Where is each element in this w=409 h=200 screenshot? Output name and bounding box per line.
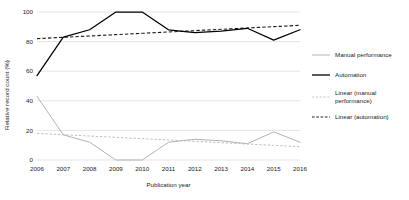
y-tick-label: 0 — [30, 156, 34, 163]
legend-label-linear-manual-performance-line1: Linear (manual — [335, 89, 376, 96]
x-tick-label: 2012 — [188, 165, 202, 172]
legend-label-linear-manual-performance-line2: performance) — [335, 97, 372, 104]
y-tick-label: 80 — [26, 38, 33, 45]
x-tick-label: 2006 — [30, 165, 44, 172]
x-tick-label: 2007 — [56, 165, 70, 172]
legend-label-automation: Automation — [335, 71, 367, 78]
y-tick-label: 100 — [23, 8, 34, 15]
x-tick-label: 2013 — [214, 165, 228, 172]
legend-label-linear-automation: Linear (automation) — [335, 113, 389, 120]
x-axis-title: Publication year — [146, 181, 190, 188]
x-tick-label: 2009 — [109, 165, 123, 172]
x-tick-label: 2014 — [241, 165, 255, 172]
y-axis-title: Relative record count (%) — [3, 60, 10, 130]
x-tick-label: 2016 — [293, 165, 307, 172]
x-tick-label: 2010 — [135, 165, 149, 172]
legend-label-manual-performance: Manual performance — [335, 51, 392, 58]
x-tick-label: 2015 — [267, 165, 281, 172]
x-tick-label: 2008 — [83, 165, 97, 172]
y-tick-label: 60 — [26, 67, 33, 74]
y-tick-label: 40 — [26, 97, 33, 104]
y-tick-label: 20 — [26, 127, 33, 134]
line-chart: 100 80 60 40 20 0 Relative record count … — [0, 0, 409, 200]
x-tick-label: 2011 — [162, 165, 176, 172]
